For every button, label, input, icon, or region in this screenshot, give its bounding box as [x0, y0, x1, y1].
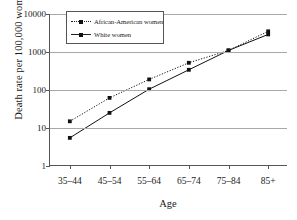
y-tick-label: 1000: [2, 47, 46, 57]
legend-item-white-women: White women: [71, 28, 159, 41]
x-tick-label: 45–54: [98, 176, 122, 186]
data-point-marker: [187, 68, 191, 72]
y-tick-mark: [46, 14, 50, 15]
data-point-marker: [187, 61, 191, 65]
legend-label: White women: [94, 31, 131, 38]
x-tick-mark: [149, 165, 150, 169]
x-tick-label: 55–64: [137, 176, 161, 186]
x-tick-label: 75–84: [217, 176, 241, 186]
y-gridline: [50, 52, 287, 53]
y-tick-mark: [46, 90, 50, 91]
x-tick-label: 85+: [261, 176, 276, 186]
y-tick-label: 100: [2, 85, 46, 95]
data-point-marker: [108, 96, 112, 100]
y-tick-label: 10: [2, 123, 46, 133]
y-tick-label: 10000: [2, 9, 46, 19]
x-tick-mark: [229, 165, 230, 169]
legend-item-african-american-women: African-American women: [71, 15, 159, 28]
data-point-marker: [68, 136, 72, 140]
chart-legend: African-American women White women: [66, 11, 164, 44]
x-tick-mark: [110, 165, 111, 169]
legend-key-solid-square-icon: [71, 30, 91, 39]
y-gridline: [50, 128, 287, 129]
y-tick-mark: [46, 52, 50, 53]
y-tick-mark: [46, 166, 50, 167]
y-tick-mark: [46, 128, 50, 129]
x-tick-mark: [268, 165, 269, 169]
x-tick-mark: [70, 165, 71, 169]
y-axis-title: Death rate per 100,000 women: [13, 0, 24, 134]
data-point-marker: [108, 111, 112, 115]
legend-key-dotted-square-icon: [71, 17, 91, 26]
data-point-marker: [266, 33, 270, 37]
y-gridline: [50, 90, 287, 91]
x-tick-mark: [189, 165, 190, 169]
legend-label: African-American women: [94, 18, 163, 25]
data-point-marker: [68, 119, 72, 123]
chart-figure: Death rate per 100,000 women 11010010001…: [0, 0, 297, 220]
y-tick-label: 1: [2, 161, 46, 171]
series-line: [70, 31, 268, 121]
x-tick-label: 35–44: [58, 176, 82, 186]
data-point-marker: [147, 78, 151, 82]
series-line: [70, 34, 268, 137]
x-axis-title: Age: [49, 198, 287, 209]
x-tick-label: 65–74: [177, 176, 201, 186]
